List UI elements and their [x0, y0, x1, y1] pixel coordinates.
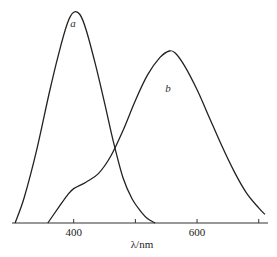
absorption-spectrum-chart: 400600 ab λ/nm: [0, 0, 277, 257]
curve-label-a: a: [70, 17, 76, 29]
curves: [15, 12, 265, 223]
x-tick-label-600: 600: [189, 226, 206, 238]
x-ticks: [74, 219, 259, 223]
curve-b: [48, 51, 265, 223]
curve-a: [15, 12, 155, 223]
x-axis-label: λ/nm: [131, 238, 154, 250]
curve-label-b: b: [165, 82, 171, 94]
x-tick-labels: 400600: [65, 226, 205, 238]
x-tick-label-400: 400: [65, 226, 82, 238]
